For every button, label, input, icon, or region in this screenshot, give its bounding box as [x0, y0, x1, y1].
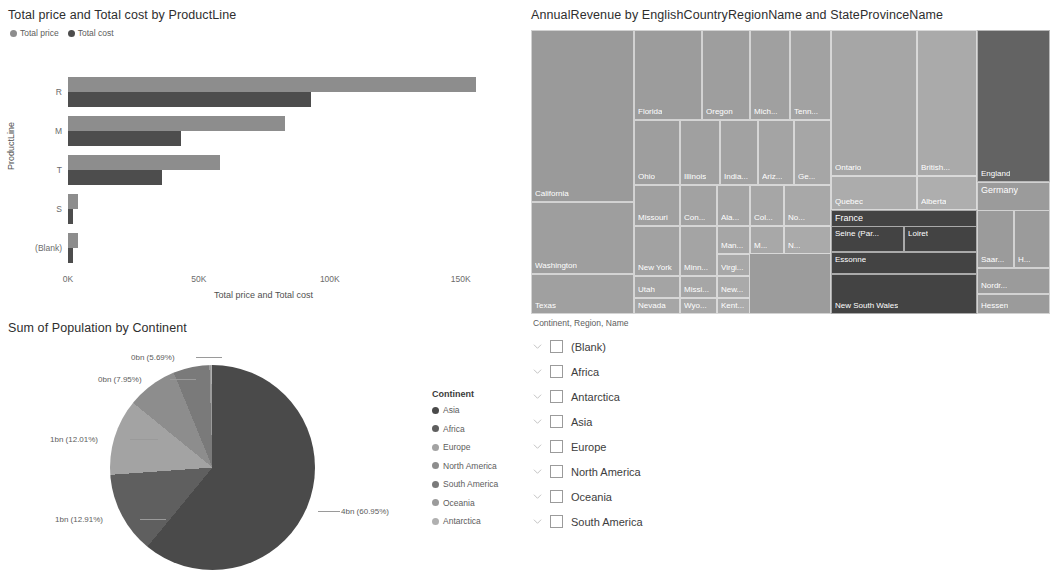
treemap-cell[interactable]: New South Wales	[831, 274, 977, 314]
treemap-cell[interactable]: N...	[784, 226, 831, 254]
bar-chart-legend[interactable]: Total priceTotal cost	[10, 28, 114, 38]
treemap-cell[interactable]: New York	[634, 226, 680, 276]
slicer-item[interactable]: Asia	[527, 409, 857, 434]
treemap-cell[interactable]: Tenn...	[790, 30, 831, 120]
bar-plot-area[interactable]: RMTS(Blank)	[68, 72, 500, 268]
bar-segment[interactable]	[68, 116, 285, 131]
treemap-cell[interactable]: Texas	[531, 274, 634, 314]
chevron-down-icon[interactable]	[533, 417, 542, 426]
bar-segment[interactable]	[68, 92, 311, 107]
slicer-checkbox[interactable]	[550, 365, 563, 378]
treemap-cell[interactable]: Mich...	[750, 30, 790, 120]
bar-group[interactable]: M	[68, 111, 500, 150]
treemap-cell[interactable]: Man...	[717, 226, 750, 254]
chevron-down-icon[interactable]	[533, 467, 542, 476]
treemap-cell[interactable]: Wyo...	[680, 298, 717, 314]
bar-group[interactable]: T	[68, 150, 500, 189]
treemap-cell[interactable]: Quebec	[831, 176, 917, 210]
bar-segment[interactable]	[68, 77, 476, 92]
slicer-item[interactable]: Europe	[527, 434, 857, 459]
treemap-cell[interactable]: Ge...	[794, 120, 831, 185]
pie-legend-item[interactable]: South America	[432, 479, 527, 489]
treemap-cell[interactable]: Con...	[680, 185, 717, 226]
slicer-item[interactable]: North America	[527, 459, 857, 484]
pie-legend[interactable]: Continent AsiaAfricaEuropeNorth AmericaS…	[432, 389, 527, 535]
treemap-cell[interactable]: Ala...	[717, 185, 750, 226]
slicer-item[interactable]: Africa	[527, 359, 857, 384]
slicer-checkbox[interactable]	[550, 415, 563, 428]
treemap-cell[interactable]: England	[977, 30, 1050, 182]
treemap-cell[interactable]: Essonne	[831, 252, 977, 274]
chevron-down-icon[interactable]	[533, 367, 542, 376]
slicer-list[interactable]: (Blank)AfricaAntarcticaAsiaEuropeNorth A…	[527, 334, 857, 534]
treemap-cell[interactable]: Loiret	[904, 226, 977, 252]
treemap-cell[interactable]: Seine (Par...	[831, 226, 904, 252]
treemap-cell[interactable]: New...	[717, 276, 750, 298]
slicer-item[interactable]: Antarctica	[527, 384, 857, 409]
treemap-cell[interactable]: Ohio	[634, 120, 680, 185]
bar-segment[interactable]	[68, 170, 162, 185]
treemap-cell[interactable]: Virgi...	[717, 254, 750, 276]
slicer-checkbox[interactable]	[550, 515, 563, 528]
continent-slicer[interactable]: Continent, Region, Name (Blank)AfricaAnt…	[527, 318, 857, 568]
treemap-cell[interactable]: Illinois	[680, 120, 720, 185]
slicer-checkbox[interactable]	[550, 490, 563, 503]
treemap-cell[interactable]: Florida	[634, 30, 702, 120]
bar-chart-visual[interactable]: Total price and Total cost by ProductLin…	[0, 0, 527, 312]
slicer-checkbox[interactable]	[550, 340, 563, 353]
treemap-cell[interactable]: Hessen	[977, 294, 1050, 314]
treemap-cell[interactable]: British...	[917, 30, 977, 176]
treemap-cell[interactable]: Saar...	[977, 210, 1014, 268]
pie-legend-item[interactable]: North America	[432, 461, 527, 471]
treemap-visual[interactable]: AnnualRevenue by EnglishCountryRegionNam…	[527, 0, 1054, 315]
chevron-down-icon[interactable]	[533, 392, 542, 401]
bar-legend-item[interactable]: Total price	[10, 28, 59, 38]
treemap-cell[interactable]: California	[531, 30, 634, 202]
treemap-cell[interactable]: Ontario	[831, 30, 917, 176]
bar-group[interactable]: (Blank)	[68, 229, 500, 268]
pie-legend-item[interactable]: Africa	[432, 424, 527, 434]
slicer-item[interactable]: (Blank)	[527, 334, 857, 359]
treemap-cell[interactable]: No...	[784, 185, 831, 226]
bar-legend-item[interactable]: Total cost	[68, 28, 114, 38]
chevron-down-icon[interactable]	[533, 517, 542, 526]
pie-legend-item[interactable]: Antarctica	[432, 516, 527, 526]
pie-area[interactable]	[110, 365, 315, 570]
bar-segment[interactable]	[68, 209, 73, 224]
bar-segment[interactable]	[68, 155, 220, 170]
bar-segment[interactable]	[68, 248, 73, 263]
treemap-cell[interactable]: M...	[750, 226, 784, 254]
treemap-cell[interactable]: Missi...	[680, 276, 717, 298]
slicer-checkbox[interactable]	[550, 440, 563, 453]
bar-segment[interactable]	[68, 194, 78, 209]
slicer-checkbox[interactable]	[550, 465, 563, 478]
treemap-cell[interactable]: Washington	[531, 202, 634, 274]
chevron-down-icon[interactable]	[533, 492, 542, 501]
chevron-down-icon[interactable]	[533, 342, 542, 351]
slicer-item[interactable]: Oceania	[527, 484, 857, 509]
treemap-cell[interactable]: Minn...	[680, 226, 717, 276]
treemap-cell[interactable]: Alberta	[917, 176, 977, 210]
treemap-cell[interactable]: H...	[1014, 210, 1050, 268]
bar-segment[interactable]	[68, 131, 181, 146]
treemap-cell[interactable]: Missouri	[634, 185, 680, 226]
slicer-item[interactable]: South America	[527, 509, 857, 534]
treemap-cell[interactable]: Utah	[634, 276, 680, 298]
chevron-down-icon[interactable]	[533, 442, 542, 451]
treemap-cell[interactable]: Nordr...	[977, 268, 1050, 294]
treemap-cell[interactable]: India...	[720, 120, 758, 185]
treemap-cell[interactable]: Ariz...	[758, 120, 794, 185]
pie-legend-item[interactable]: Europe	[432, 442, 527, 452]
bar-group[interactable]: S	[68, 190, 500, 229]
treemap-cell[interactable]: Col...	[750, 185, 784, 226]
treemap-area[interactable]: United StatesCaliforniaWashingtonTexasFl…	[531, 30, 1050, 314]
bar-group[interactable]: R	[68, 72, 500, 111]
bar-segment[interactable]	[68, 233, 78, 248]
pie-chart-visual[interactable]: Sum of Population by Continent Continent…	[0, 315, 527, 585]
pie-slices[interactable]	[110, 365, 315, 570]
pie-legend-item[interactable]: Asia	[432, 405, 527, 415]
treemap-cell[interactable]: Kent...	[717, 298, 750, 314]
slicer-checkbox[interactable]	[550, 390, 563, 403]
pie-legend-item[interactable]: Oceania	[432, 498, 527, 508]
treemap-cell[interactable]: Oregon	[702, 30, 750, 120]
